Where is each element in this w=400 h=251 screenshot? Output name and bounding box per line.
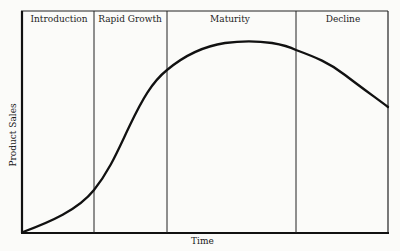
product-life-cycle-diagram: Introduction Rapid Growth Maturity Decli… [0, 0, 400, 251]
x-axis-label: Time [191, 236, 214, 246]
chart-svg [0, 0, 400, 251]
phase-label-decline: Decline [306, 14, 380, 24]
phase-label-introduction: Introduction [28, 14, 90, 24]
phase-label-maturity: Maturity [200, 14, 260, 24]
sales-curve [23, 42, 388, 233]
phase-label-rapid-growth: Rapid Growth [96, 14, 164, 24]
y-axis-label: Product Sales [8, 100, 18, 170]
